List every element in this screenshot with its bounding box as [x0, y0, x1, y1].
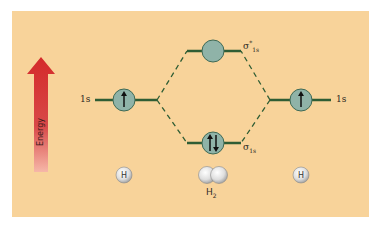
correlation-lines: [157, 51, 270, 143]
svg-text:H: H: [298, 171, 304, 180]
left-1s-label: 1s: [80, 95, 90, 104]
antibonding-orbital: [187, 40, 241, 62]
right-h-atom-icon: H: [293, 167, 309, 183]
left-1s-orbital: [95, 89, 157, 111]
right-1s-orbital: [270, 89, 331, 111]
mo-diagram: H H: [0, 0, 380, 227]
h2-molecule-icon: [199, 167, 228, 184]
bonding-orbital: [187, 132, 241, 154]
right-1s-label: 1s: [336, 95, 346, 104]
antibonding-label: σ*1s: [243, 40, 259, 53]
bonding-label: σ1s: [243, 143, 256, 154]
energy-arrow-icon: [27, 57, 55, 172]
energy-axis-label: Energy: [36, 118, 45, 146]
svg-text:H: H: [121, 171, 127, 180]
left-h-atom-icon: H: [116, 167, 132, 183]
h2-label: H2: [206, 188, 217, 199]
